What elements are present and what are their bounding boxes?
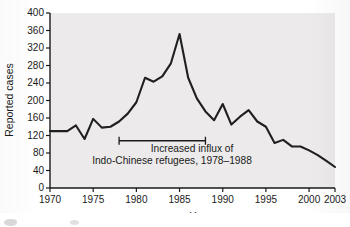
annotation-line-1: Increased influx of [151, 143, 234, 154]
x-tick-label: 2000 [298, 194, 321, 205]
x-tick-label: 2003 [324, 194, 347, 205]
y-axis-ticks: 04080120160200240280320360400 [27, 7, 50, 193]
y-tick-label: 200 [27, 95, 44, 106]
x-tick-label: 1995 [255, 194, 278, 205]
x-axis-ticks: 19701975198019851990199520002003 [39, 188, 347, 205]
x-tick-label: 1980 [125, 194, 148, 205]
x-tick-label: 1975 [82, 194, 105, 205]
x-tick-label: 1990 [212, 194, 235, 205]
annotation-line-2: Indo-Chinese refugees, 1978–1988 [92, 155, 252, 166]
scan-artifact-left [4, 219, 17, 226]
chart-figure: 04080120160200240280320360400 1970197519… [0, 0, 350, 227]
y-tick-label: 0 [38, 182, 44, 193]
page-bottom-margin [0, 213, 350, 227]
y-tick-label: 120 [27, 130, 44, 141]
y-tick-label: 360 [27, 25, 44, 36]
x-tick-label: 1970 [39, 194, 62, 205]
y-tick-label: 80 [33, 147, 45, 158]
x-tick-label: 1985 [168, 194, 191, 205]
y-tick-label: 40 [33, 165, 45, 176]
y-tick-label: 320 [27, 42, 44, 53]
line-chart-svg: 04080120160200240280320360400 1970197519… [0, 0, 350, 227]
y-tick-label: 160 [27, 112, 44, 123]
y-tick-label: 400 [27, 7, 44, 18]
y-tick-label: 240 [27, 77, 44, 88]
y-axis-title: Reported cases [3, 63, 15, 137]
scan-artifact-mid [70, 220, 79, 225]
y-tick-label: 280 [27, 60, 44, 71]
